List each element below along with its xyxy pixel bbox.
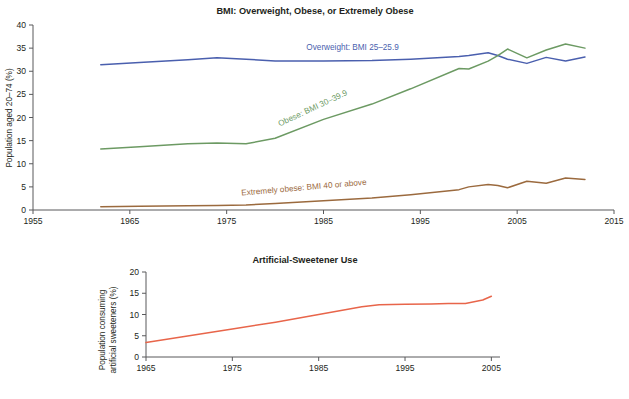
x-tick-label: 1985 bbox=[309, 363, 328, 373]
x-tick-label: 1975 bbox=[217, 216, 236, 226]
x-tick-label: 1955 bbox=[23, 216, 42, 226]
series-line-0 bbox=[101, 53, 585, 65]
y-tick-label: 15 bbox=[16, 136, 26, 146]
bmi-chart-title: BMI: Overweight, Obese, or Extremely Obe… bbox=[216, 6, 413, 16]
x-tick-label: 1965 bbox=[136, 363, 155, 373]
bmi-y-axis-label: Population aged 20–74 (%) bbox=[5, 68, 14, 168]
bmi-x-ticks: 1955196519751985199520052015 bbox=[23, 210, 623, 226]
y-tick-label: 5 bbox=[134, 331, 139, 341]
x-tick-label: 2005 bbox=[482, 363, 501, 373]
y-tick-label: 10 bbox=[16, 159, 26, 169]
x-tick-label: 1985 bbox=[314, 216, 333, 226]
y-tick-label: 40 bbox=[16, 20, 26, 30]
sweetener-y-ticks: 05101520 bbox=[129, 267, 146, 362]
sweetener-chart: Artificial-Sweetener Use Population cons… bbox=[0, 240, 629, 399]
bmi-y-ticks: 0510152025303540 bbox=[16, 20, 33, 215]
svg-text:Population consuming: Population consuming bbox=[98, 289, 107, 370]
sweetener-x-ticks: 19651975198519952005 bbox=[136, 357, 501, 373]
y-tick-label: 20 bbox=[129, 267, 139, 277]
x-tick-label: 2005 bbox=[508, 216, 527, 226]
sweetener-chart-title: Artificial-Sweetener Use bbox=[252, 255, 357, 265]
y-tick-label: 5 bbox=[21, 182, 26, 192]
y-tick-label: 30 bbox=[16, 66, 26, 76]
series-annotation-0: Overweight: BMI 25–25.9 bbox=[306, 43, 399, 52]
y-tick-label: 15 bbox=[129, 288, 139, 298]
series-line-0 bbox=[146, 296, 491, 342]
y-tick-label: 0 bbox=[21, 205, 26, 215]
figure-container: BMI: Overweight, Obese, or Extremely Obe… bbox=[0, 0, 629, 399]
sweetener-y-axis-label: Population consuming artificial sweetene… bbox=[98, 286, 118, 373]
x-tick-label: 1995 bbox=[411, 216, 430, 226]
svg-text:artificial sweeteners (%): artificial sweeteners (%) bbox=[109, 286, 118, 373]
y-tick-label: 20 bbox=[16, 113, 26, 123]
series-annotation-2: Extremely obese: BMI 40 or above bbox=[241, 178, 367, 198]
x-tick-label: 2015 bbox=[604, 216, 623, 226]
sweetener-series-group bbox=[146, 296, 491, 342]
series-annotation-1: Obese: BMI 30–39.9 bbox=[277, 88, 349, 128]
x-tick-label: 1995 bbox=[395, 363, 414, 373]
x-tick-label: 1965 bbox=[120, 216, 139, 226]
y-tick-label: 35 bbox=[16, 43, 26, 53]
y-tick-label: 10 bbox=[129, 310, 139, 320]
x-tick-label: 1975 bbox=[223, 363, 242, 373]
y-tick-label: 0 bbox=[134, 352, 139, 362]
y-tick-label: 25 bbox=[16, 89, 26, 99]
bmi-chart: BMI: Overweight, Obese, or Extremely Obe… bbox=[0, 0, 629, 240]
svg-text:Population aged 20–74 (%): Population aged 20–74 (%) bbox=[5, 68, 14, 168]
